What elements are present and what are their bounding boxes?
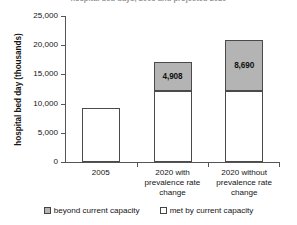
y-axis-tick-label: 25,000	[14, 11, 58, 20]
x-axis-category-line: prevalence rate	[137, 178, 209, 188]
x-axis-tick	[208, 163, 209, 167]
legend-label-beyond: beyond current capacity	[54, 206, 140, 215]
x-axis-tick	[137, 163, 138, 167]
bar-segment-met-by-current-capacity	[82, 108, 120, 162]
y-axis-tick	[61, 16, 65, 17]
bar-value-label: 8,690	[225, 61, 263, 70]
legend-item-met-by-current-capacity: met by current capacity	[160, 206, 254, 215]
x-axis-category-line: 2005	[65, 168, 137, 178]
x-axis-category-line: prevalence rate	[208, 178, 280, 188]
y-axis-tick	[61, 162, 65, 163]
x-axis-tick	[279, 163, 280, 167]
x-axis-category-label: 2005	[65, 168, 137, 178]
y-axis-tick	[61, 104, 65, 105]
x-axis-category-label: 2020 withprevalence ratechange	[137, 168, 209, 198]
gray-swatch-icon	[44, 207, 51, 214]
y-axis-tick	[61, 45, 65, 46]
x-axis-category-labels: 20052020 withprevalence ratechange2020 w…	[65, 168, 280, 202]
chart-legend: beyond current capacity met by current c…	[0, 206, 297, 215]
x-axis-line	[65, 162, 280, 163]
bar-group: 8,690	[225, 40, 263, 162]
bar-segment-met-by-current-capacity	[225, 91, 263, 162]
x-axis-category-line: 2020 without	[208, 168, 280, 178]
chart-figure: hospital bed days, 2005 and projected 20…	[0, 0, 297, 225]
bar-group: 4,908	[154, 62, 192, 162]
y-axis-line	[65, 16, 66, 163]
y-axis-title: hospital bed day (thousands)	[14, 15, 23, 165]
y-axis-tick-label: 10,000	[14, 99, 58, 108]
white-swatch-icon	[160, 207, 167, 214]
bar-group	[82, 108, 120, 162]
bar-value-label: 4,908	[154, 72, 192, 81]
y-axis-tick-label: 5,000	[14, 128, 58, 137]
legend-label-met: met by current capacity	[170, 206, 254, 215]
x-axis-category-label: 2020 withoutprevalence ratechange	[208, 168, 280, 198]
legend-item-beyond-current-capacity: beyond current capacity	[44, 206, 140, 215]
y-axis-tick-label: 20,000	[14, 40, 58, 49]
y-axis-tick-label: 15,000	[14, 69, 58, 78]
x-axis-category-line: change	[137, 188, 209, 198]
plot-area: 05,00010,00015,00020,00025,000 4,9088,69…	[65, 16, 280, 163]
chart-title: hospital bed days, 2005 and projected 20…	[0, 0, 297, 3]
bar-segment-met-by-current-capacity	[154, 91, 192, 162]
x-axis-category-line: 2020 with	[137, 168, 209, 178]
x-axis-category-line: change	[208, 188, 280, 198]
y-axis-tick	[61, 74, 65, 75]
y-axis-tick-label: 0	[14, 157, 58, 166]
y-axis-tick	[61, 133, 65, 134]
